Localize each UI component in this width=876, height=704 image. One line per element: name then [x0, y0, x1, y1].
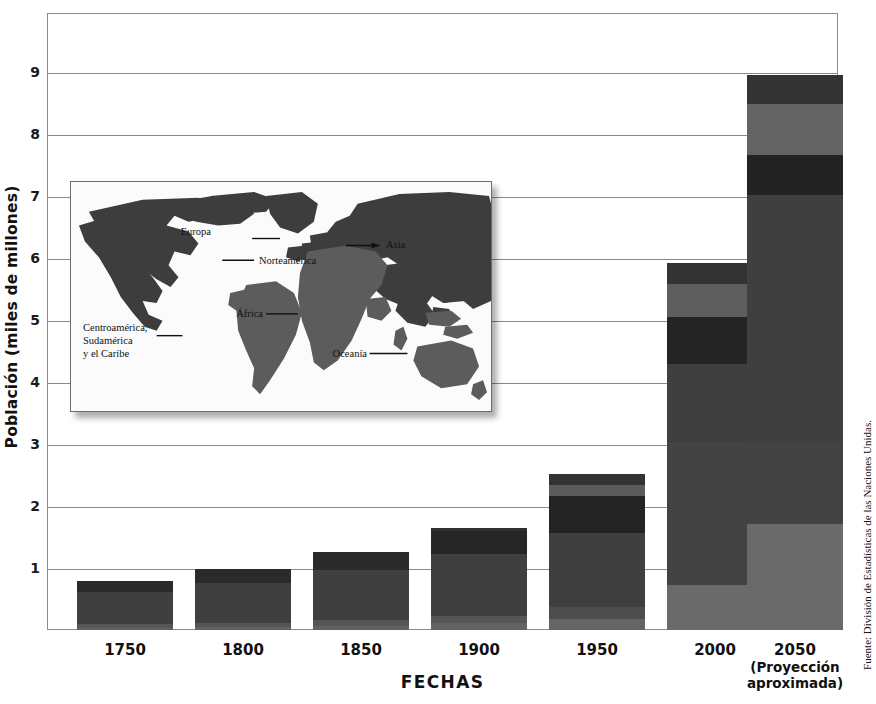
x-label-year: 2000 [694, 642, 736, 660]
y-tick-1: 1 [16, 560, 40, 576]
map-label-norteamerica: Norteamérica [259, 255, 316, 268]
gridline-3 [48, 445, 837, 446]
map-label-latinoamerica-line2: Sudamérica [83, 335, 147, 348]
x-label-year: 2050 [747, 642, 843, 660]
gridline-8 [48, 135, 837, 136]
map-label-latinoamerica-line3: y el Caribe [83, 348, 147, 361]
y-tick-3: 3 [16, 436, 40, 452]
map-label-oceania: Oceanía [333, 348, 367, 361]
gridline-1 [48, 569, 837, 570]
y-tick-4: 4 [16, 374, 40, 390]
x-label-year: 1800 [222, 642, 264, 660]
x-label-year: 1950 [576, 642, 618, 660]
x-label-1850: 1850 [340, 642, 382, 660]
x-label-1900: 1900 [458, 642, 500, 660]
x-label-2000: 2000 [694, 642, 736, 660]
y-tick-5: 5 [16, 312, 40, 328]
world-map-inset: Europa Asia Norteamérica África Oceanía … [70, 181, 492, 412]
x-label-year: 1900 [458, 642, 500, 660]
world-map-svg [71, 182, 491, 411]
source-note-text: Fuente: División de Estadísticas de las … [861, 420, 873, 670]
x-axis-labels: 1750180018501900195020002050(Proyeccióna… [47, 634, 838, 704]
map-label-latinoamerica: Centroamérica, Sudamérica y el Caribe [83, 322, 147, 360]
x-axis-title: FECHAS [47, 672, 838, 692]
map-label-europa: Europa [181, 226, 211, 239]
y-tick-8: 8 [16, 126, 40, 142]
gridline-2 [48, 507, 837, 508]
y-tick-7: 7 [16, 188, 40, 204]
map-label-latinoamerica-line1: Centroamérica, [83, 322, 147, 335]
x-label-year: 1750 [104, 642, 146, 660]
map-label-africa: África [236, 308, 263, 321]
x-label-1750: 1750 [104, 642, 146, 660]
y-tick-9: 9 [16, 64, 40, 80]
map-label-asia: Asia [386, 239, 405, 252]
x-label-year: 1850 [340, 642, 382, 660]
x-label-1800: 1800 [222, 642, 264, 660]
y-tick-6: 6 [16, 250, 40, 266]
x-label-1950: 1950 [576, 642, 618, 660]
gridline-9 [48, 73, 837, 74]
y-tick-2: 2 [16, 498, 40, 514]
